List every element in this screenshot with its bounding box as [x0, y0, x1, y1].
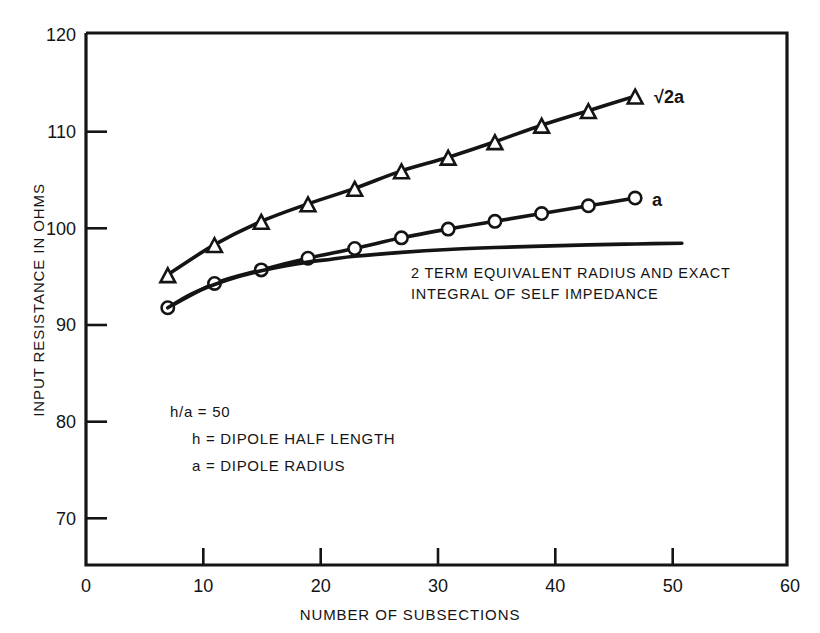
data-point-marker — [582, 200, 594, 212]
series-label-a: a — [652, 190, 663, 210]
y-axis-title: INPUT RESISTANCE IN OHMS — [30, 183, 47, 417]
x-tick-label-10: 10 — [193, 576, 213, 596]
parameter-a: a = DIPOLE RADIUS — [192, 457, 345, 474]
series-label-sqrt2a: √2a — [654, 87, 685, 107]
y-tick-label-90: 90 — [56, 315, 76, 335]
data-point-marker — [395, 232, 407, 244]
y-tick-label-80: 80 — [56, 412, 76, 432]
curve-note-line-1: 2 TERM EQUIVALENT RADIUS AND EXACT — [411, 265, 731, 281]
data-point-marker — [349, 242, 361, 254]
x-tick-label-20: 20 — [311, 576, 331, 596]
x-tick-label-40: 40 — [545, 576, 565, 596]
parameter-h: h = DIPOLE HALF LENGTH — [192, 430, 395, 447]
x-tick-label-0: 0 — [81, 576, 91, 596]
x-tick-label-50: 50 — [663, 576, 683, 596]
chart-background — [0, 0, 820, 633]
data-point-marker — [442, 223, 454, 235]
x-tick-label-60: 60 — [780, 576, 800, 596]
parameter-h-over-a: h/a = 50 — [170, 403, 230, 420]
data-point-marker — [489, 215, 501, 227]
input-resistance-vs-subsections-chart: 120 110 100 90 80 70 0 10 20 30 40 50 60… — [0, 0, 820, 633]
x-axis-title: NUMBER OF SUBSECTIONS — [300, 606, 521, 623]
chart-figure: 120 110 100 90 80 70 0 10 20 30 40 50 60… — [0, 0, 820, 633]
y-tick-label-120: 120 — [46, 25, 76, 45]
y-tick-label-110: 110 — [47, 122, 76, 142]
x-tick-label-30: 30 — [428, 576, 448, 596]
data-point-marker — [535, 207, 547, 219]
y-tick-label-100: 100 — [46, 219, 76, 239]
y-tick-label-70: 70 — [56, 509, 76, 529]
data-point-marker — [629, 192, 641, 204]
curve-note-line-2: INTEGRAL OF SELF IMPEDANCE — [411, 286, 658, 302]
